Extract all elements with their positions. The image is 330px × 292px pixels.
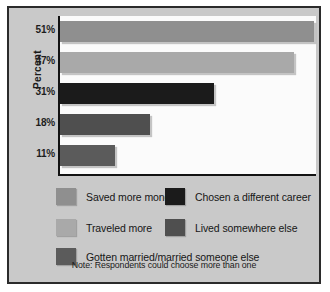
legend-label-traveled-more: Traveled more	[86, 222, 152, 234]
bar-lived-somewhere-else	[60, 114, 150, 135]
legend-swatch-lived-somewhere-else	[165, 219, 185, 236]
bar-gotten-married	[60, 145, 115, 166]
legend-entry-saved-more-money: Saved more money	[56, 188, 175, 205]
y-tick-label-1: 47%	[23, 55, 55, 66]
y-tick-label-2: 31%	[23, 86, 55, 97]
y-tick-label-4: 11%	[23, 148, 55, 159]
legend-note: Note: Respondents could choose more than…	[9, 260, 319, 270]
y-tick-label-3: 18%	[23, 117, 55, 128]
legend-label-saved-more-money: Saved more money	[86, 191, 175, 203]
legend-label-chosen-different-career: Chosen a different career	[195, 191, 311, 203]
legend-entry-traveled-more: Traveled more	[56, 219, 152, 236]
bar-chosen-different-career	[60, 83, 214, 104]
chart-frame: Percent 51% 47% 31% 18% 11% Saved more m…	[7, 6, 321, 284]
legend-entry-chosen-different-career: Chosen a different career	[165, 188, 311, 205]
y-tick-label-0: 51%	[23, 24, 55, 35]
x-axis-line	[58, 174, 316, 176]
legend-label-lived-somewhere-else: Lived somewhere else	[195, 222, 297, 234]
bar-saved-more-money	[60, 21, 314, 42]
chart-figure: Percent 51% 47% 31% 18% 11% Saved more m…	[0, 0, 330, 292]
chart-legend: Saved more money Chosen a different care…	[9, 186, 319, 282]
legend-entry-lived-somewhere-else: Lived somewhere else	[165, 219, 297, 236]
legend-swatch-saved-more-money	[56, 188, 76, 205]
legend-swatch-chosen-different-career	[165, 188, 185, 205]
bar-traveled-more	[60, 52, 294, 73]
legend-swatch-traveled-more	[56, 219, 76, 236]
